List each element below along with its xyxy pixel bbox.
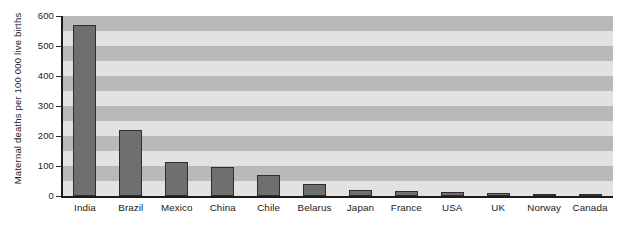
bar: [73, 25, 96, 196]
x-axis-tick-label: Japan: [338, 201, 384, 215]
x-axis-tick-label: Belarus: [292, 201, 338, 215]
bar: [257, 175, 280, 196]
y-axis-tick-label: 300: [24, 101, 54, 111]
x-axis-tick-label: Brazil: [108, 201, 154, 215]
y-axis-tick-label-group: 0100200300400500600: [24, 0, 54, 237]
y-axis-tick-label: 600: [24, 11, 54, 21]
bar: [487, 193, 510, 196]
x-axis-tick-label: France: [383, 201, 429, 215]
bar: [303, 184, 326, 196]
bar: [165, 162, 188, 196]
x-axis-tick-label: Chile: [246, 201, 292, 215]
bar: [119, 130, 142, 196]
y-axis-tick-mark: [56, 196, 62, 197]
x-axis-tick-label-group: IndiaBrazilMexicoChinaChileBelarusJapanF…: [62, 201, 613, 221]
bar: [441, 192, 464, 196]
bar: [211, 167, 234, 196]
y-axis-tick-label: 200: [24, 131, 54, 141]
x-axis-tick-label: China: [200, 201, 246, 215]
bar: [349, 190, 372, 196]
bar-chart-figure: Maternal deaths per 100 000 live births …: [0, 0, 629, 237]
x-axis-tick-label: Mexico: [154, 201, 200, 215]
y-axis-tick-label: 400: [24, 71, 54, 81]
y-axis-tick-mark: [56, 16, 62, 17]
y-axis-tick-label: 100: [24, 161, 54, 171]
bar: [533, 194, 556, 196]
bars-layer: [62, 16, 613, 196]
y-axis-tick-label: 500: [24, 41, 54, 51]
y-axis-tick-mark: [56, 76, 62, 77]
y-axis-tick-mark: [56, 166, 62, 167]
x-axis-tick-label: India: [62, 201, 108, 215]
y-axis-tick-mark: [56, 106, 62, 107]
y-axis-tick-label: 0: [24, 191, 54, 201]
y-axis-tick-mark: [56, 136, 62, 137]
bar: [395, 191, 418, 196]
bar: [579, 194, 602, 196]
x-axis-tick-label: USA: [429, 201, 475, 215]
x-axis-tick-label: UK: [475, 201, 521, 215]
x-axis-tick-label: Canada: [567, 201, 613, 215]
x-axis-line: [61, 196, 613, 198]
x-axis-tick-label: Norway: [521, 201, 567, 215]
y-axis-tick-mark: [56, 46, 62, 47]
